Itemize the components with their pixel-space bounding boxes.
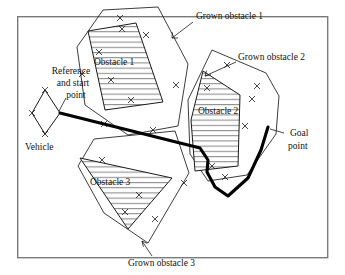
label-vehicle: Vehicle: [25, 142, 54, 152]
label-reference-line-1: Reference: [52, 66, 91, 76]
label-obstacle-2: Obstacle 2: [198, 106, 239, 116]
label-obstacle-3: Obstacle 3: [90, 177, 131, 187]
obstacle-2: [185, 65, 247, 177]
label-grown-obstacle-1: Grown obstacle 1: [196, 11, 263, 21]
label-goal-line-2: point: [288, 141, 308, 151]
path-planning-figure: Grown obstacle 1 Grown obstacle 2 Grown …: [0, 0, 345, 275]
obstacle-3-hatching: [75, 152, 177, 236]
label-goal-line-1: Goal: [290, 128, 309, 138]
obstacle-1: [80, 18, 175, 118]
label-reference-line-3: point: [66, 90, 86, 100]
obstacle-3: [75, 152, 177, 236]
vehicle-polygon: [29, 87, 60, 137]
label-reference-line-2: and start: [57, 78, 90, 88]
label-grown-obstacle-2: Grown obstacle 2: [238, 52, 305, 62]
obstacle-1-hatching: [80, 18, 175, 118]
label-obstacle-1: Obstacle 1: [94, 57, 135, 67]
label-grown-obstacle-3: Grown obstacle 3: [128, 258, 195, 268]
